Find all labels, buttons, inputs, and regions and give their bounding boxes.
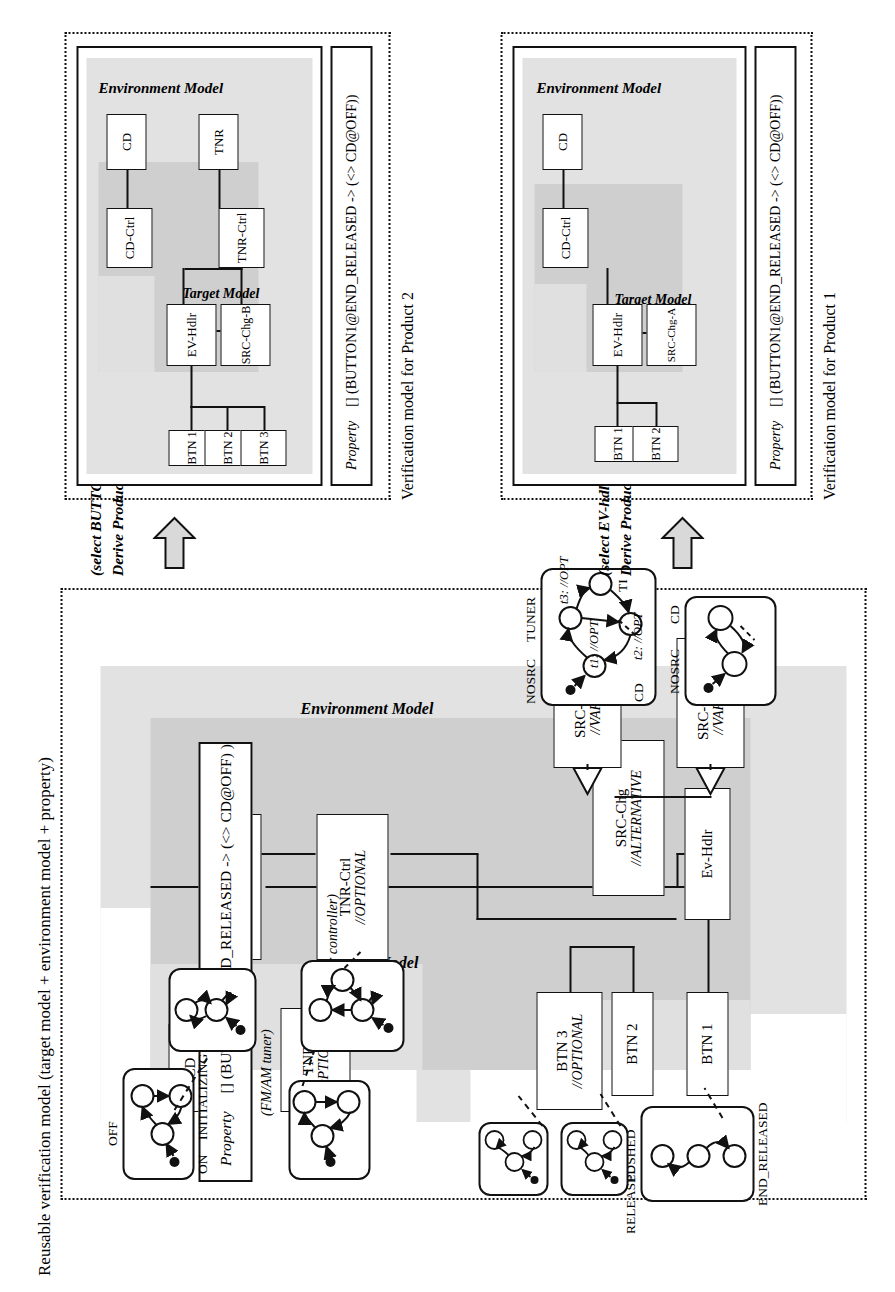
product1-src-chg-a-label: SRC-Chg-A	[665, 308, 676, 362]
p2-edge-srcchgb-tnrctrl	[240, 268, 242, 304]
tnr-ctrl-statechart	[300, 960, 404, 1052]
figure-page: Reusable verification model (target mode…	[0, 0, 895, 1292]
product2-ev-hdlr-label: EV-Hdlr	[184, 313, 197, 357]
fm-am-tuner-note: (FM/AM tuner)	[258, 1029, 274, 1116]
component-btn3-label: BTN 3	[554, 1030, 569, 1071]
component-btn3-stereotype: //OPTIONAL	[570, 1014, 584, 1089]
product2-tnr-label: TNR	[211, 129, 224, 155]
srcchg-b-state-nosrc: NOSRC	[522, 659, 538, 704]
component-btn1[interactable]: BTN 1	[686, 992, 728, 1096]
component-btn1-label: BTN 1	[699, 1023, 714, 1064]
product2-btn2-label: BTN 2	[221, 432, 233, 465]
edge-gen-to-srcchg-b	[614, 796, 616, 798]
product2-environment-label: Environment Model	[98, 80, 223, 97]
product2-component-tnr-ctrl[interactable]: TNR-Ctrl	[218, 208, 264, 268]
product2-caption: Verification model for Product 2	[398, 292, 416, 500]
p1-edge-btn1-evhdlr	[616, 366, 618, 426]
generalization-arrow-a	[694, 766, 726, 796]
figure-canvas: Reusable verification model (target mode…	[0, 0, 895, 1292]
product1-component-ev-hdlr[interactable]: EV-Hdlr	[592, 304, 642, 366]
srcchg-b-state-cd: CD	[630, 683, 646, 702]
p2-edge-evhdlr-btn1	[190, 366, 192, 408]
figure-main-title: Reusable verification model (target mode…	[34, 757, 54, 1276]
edge-srcchga-gen	[709, 764, 711, 770]
product2-btn3-label: BTN 3	[257, 432, 269, 465]
edge-evhdlr-srcchg-2	[676, 853, 678, 887]
environment-model-label: Environment Model	[300, 700, 433, 718]
srcchg-a-state-nosrc: NOSRC	[666, 649, 682, 694]
product2-target-notch	[98, 276, 154, 372]
p2-edge-btn3-bus	[263, 406, 265, 430]
derive-product1-arrow	[660, 516, 704, 570]
product2-property-formula: [] (BUTTON1@END_RELEASED -> (<> CD@OFF))	[343, 95, 359, 407]
product2-component-tnr[interactable]: TNR	[198, 114, 238, 170]
product2-component-btn3[interactable]: BTN 3	[240, 430, 286, 466]
component-ev-hdlr[interactable]: Ev-Hdlr	[684, 788, 730, 920]
cd-ctrl-statechart	[168, 968, 256, 1052]
generalization-arrow-b	[571, 766, 603, 796]
product1-caption: Verification model for Product 1	[820, 292, 838, 500]
dashed-link-btn3	[512, 1094, 546, 1128]
product2-tnr-ctrl-label: TNR-Ctrl	[234, 213, 247, 264]
edge-tnrctrl-vert	[390, 853, 478, 855]
product1-property-formula: [] (BUTTON1@END_RELEASED -> (<> CD@OFF))	[767, 95, 783, 407]
edge-srcchgb-gen	[586, 764, 588, 770]
product1-component-cd-ctrl[interactable]: CD-Ctrl	[542, 208, 588, 268]
product1-property-box: Property [] (BUTTON1@END_RELEASED -> (<>…	[754, 46, 796, 486]
product2-src-chg-b-label: SRC-Chg-B	[239, 306, 251, 365]
p1-edge-btn-bus	[616, 402, 656, 404]
component-tnr-ctrl-stereotype: //OPTIONAL	[353, 850, 367, 925]
edge-btn-vertical	[570, 946, 634, 948]
p1-edge-evhdlr-cdctrl	[606, 268, 608, 304]
cd-state-on: ON	[194, 1155, 210, 1175]
edge-btn3-spine	[569, 946, 571, 992]
product1-environment-label: Environment Model	[536, 80, 661, 97]
edge-gen-to-srcchg-a	[615, 796, 711, 798]
product2-cd-label: CD	[119, 133, 132, 151]
product2-property-box: Property [] (BUTTON1@END_RELEASED -> (<>…	[330, 46, 372, 486]
dashed-link-btn1	[700, 1086, 726, 1120]
cd-state-off: OFF	[104, 1121, 120, 1146]
main-property-keyword: Property	[216, 1111, 234, 1166]
edge-srcchg-tnrctrl-2	[476, 854, 478, 920]
p2-edge-cdctrl-cd	[126, 170, 128, 208]
product1-btn1-label: BTN 1	[611, 428, 623, 461]
product2-component-cd-ctrl[interactable]: CD-Ctrl	[106, 208, 152, 268]
product2-component-cd[interactable]: CD	[106, 114, 146, 170]
srcchg-a-state-cd: CD	[666, 605, 682, 624]
dashed-link-btn2	[594, 1092, 624, 1128]
p1-edge-btn2-bus	[655, 402, 657, 426]
p2-edge-btn2-bus	[226, 406, 228, 430]
p2-edge-cdctrl-tnrctrl-join	[184, 268, 242, 270]
component-ev-hdlr-label: Ev-Hdlr	[699, 829, 714, 878]
btn2-statechart	[560, 1122, 628, 1196]
product1-cd-ctrl-label: CD-Ctrl	[558, 217, 571, 260]
product1-target-notch	[534, 284, 586, 372]
product2-target-label: Target Model	[182, 286, 259, 302]
p1-edge-cdctrl-cd	[562, 170, 564, 208]
srcchg-a-statechart	[684, 596, 776, 706]
srcchg-b-transition-t3: t3: //OPT	[556, 556, 571, 604]
product2-property-keyword: Property	[343, 421, 359, 470]
component-btn3[interactable]: BTN 3 //OPTIONAL	[536, 992, 602, 1110]
component-btn2-label: BTN 2	[624, 1023, 639, 1064]
product1-cd-label: CD	[555, 133, 568, 151]
srcchg-b-state-tuner: TUNER	[522, 597, 538, 642]
edge-btn2-spine	[632, 946, 634, 992]
dashed-link-cd	[170, 1052, 214, 1112]
product1-property-keyword: Property	[767, 421, 783, 470]
product1-component-btn2[interactable]: BTN 2	[632, 426, 678, 462]
product1-component-cd[interactable]: CD	[542, 114, 582, 170]
dashed-link-srcchga	[738, 622, 758, 642]
product2-component-ev-hdlr[interactable]: EV-Hdlr	[166, 304, 216, 366]
component-btn2[interactable]: BTN 2	[611, 992, 653, 1096]
product1-component-src-chg-a[interactable]: SRC-Chg-A	[646, 304, 696, 366]
button-state-end-released: END_RELEASED	[754, 1103, 770, 1207]
product2-component-src-chg-b[interactable]: SRC-Chg-B	[220, 304, 270, 366]
button-statechart	[640, 1106, 754, 1202]
product2-btn1-label: BTN 1	[185, 432, 197, 465]
p2-edge-evhdlr-cdctrl	[182, 268, 184, 304]
srcchg-b-transition-t1: t1: //OPT	[586, 620, 601, 668]
tnr-statechart	[288, 1080, 370, 1180]
p2-edge-tnrctrl-tnr	[218, 170, 220, 208]
